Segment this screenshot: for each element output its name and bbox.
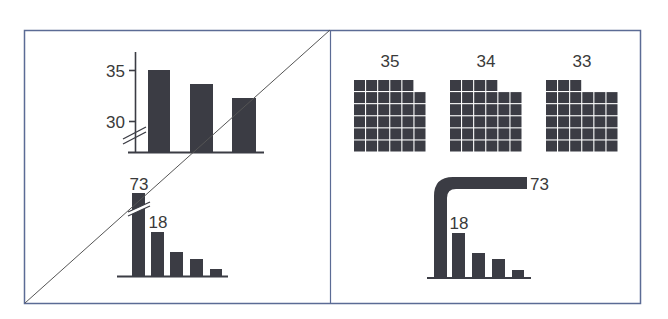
waffle-cell <box>378 141 389 152</box>
waffle-cell <box>390 141 401 152</box>
waffle-cell <box>511 128 522 139</box>
bar <box>472 253 485 278</box>
waffle-cell <box>486 116 497 127</box>
waffle-cell <box>390 104 401 115</box>
waffle-cell <box>366 92 377 103</box>
waffle-cell <box>450 92 461 103</box>
waffle-cell <box>486 141 497 152</box>
waffle-cell <box>402 80 413 91</box>
waffle-cell <box>582 116 593 127</box>
waffle-cell <box>378 80 389 91</box>
waffle-cell <box>354 80 365 91</box>
waffle-cell <box>486 128 497 139</box>
waffle-cell <box>378 128 389 139</box>
waffle-label-34: 34 <box>477 52 496 71</box>
waffle-cell <box>558 116 569 127</box>
tick-label-35: 35 <box>106 62 125 81</box>
waffle-cell <box>570 128 581 139</box>
waffle-cell <box>474 128 485 139</box>
waffle-cell <box>607 141 618 152</box>
tick-label-30: 30 <box>106 113 125 132</box>
waffle-cell <box>415 128 426 139</box>
waffle-cell <box>474 116 485 127</box>
waffle-cell <box>378 116 389 127</box>
waffle-cell <box>570 92 581 103</box>
comparison-figure: 35 30 73 18 <box>0 0 668 319</box>
waffle-cell <box>558 92 569 103</box>
waffle-cell <box>607 116 618 127</box>
waffle-cell <box>594 141 605 152</box>
waffle-cell <box>402 92 413 103</box>
waffle-cell <box>546 80 557 91</box>
waffle-cell <box>354 116 365 127</box>
left-panel: 35 30 73 18 <box>25 30 330 303</box>
waffle-cell <box>450 104 461 115</box>
waffle-cell <box>415 141 426 152</box>
waffle-cell <box>402 116 413 127</box>
waffle-cell <box>366 128 377 139</box>
waffle-cell <box>511 104 522 115</box>
waffle-cell <box>511 92 522 103</box>
waffle-cell <box>511 141 522 152</box>
waffle-cell <box>415 92 426 103</box>
waffle-cell <box>474 104 485 115</box>
waffle-cell <box>486 80 497 91</box>
waffle-cell <box>354 104 365 115</box>
broken-bar-chart: 73 18 <box>117 175 228 277</box>
waffle-cell <box>415 104 426 115</box>
waffle-cell <box>450 128 461 139</box>
right-panel: 35 34 33 73 18 <box>354 52 618 278</box>
axis-break-mark <box>123 127 146 139</box>
waffle-cell <box>390 116 401 127</box>
truncated-bar-chart: 35 30 <box>106 52 264 153</box>
waffle-cell <box>594 128 605 139</box>
waffle-cell <box>558 141 569 152</box>
waffle-cell <box>462 92 473 103</box>
waffle-cell <box>570 104 581 115</box>
waffle-cell <box>498 128 509 139</box>
waffle-charts <box>354 80 618 152</box>
waffle-cell <box>378 104 389 115</box>
waffle-label-35: 35 <box>381 52 400 71</box>
waffle-cell <box>607 128 618 139</box>
bar <box>492 259 505 278</box>
waffle-cell <box>486 92 497 103</box>
waffle-cell <box>570 141 581 152</box>
waffle-cell <box>594 116 605 127</box>
bar <box>170 252 183 276</box>
waffle-cell <box>546 92 557 103</box>
waffle-cell <box>462 104 473 115</box>
label-18: 18 <box>149 213 168 232</box>
waffle-cell <box>546 116 557 127</box>
waffle-cell <box>402 104 413 115</box>
label-73: 73 <box>530 175 549 194</box>
waffle-cell <box>402 128 413 139</box>
waffle-cell <box>511 116 522 127</box>
waffle-cell <box>546 128 557 139</box>
waffle-chart-35 <box>354 80 426 152</box>
waffle-cell <box>486 104 497 115</box>
waffle-cell <box>390 80 401 91</box>
waffle-cell <box>498 104 509 115</box>
bent-bar-chart: 73 18 <box>427 175 549 278</box>
waffle-cell <box>366 141 377 152</box>
waffle-cell <box>450 116 461 127</box>
waffle-cell <box>546 104 557 115</box>
waffle-cell <box>570 116 581 127</box>
waffle-chart-33 <box>546 80 618 152</box>
waffle-cell <box>462 116 473 127</box>
bar <box>512 270 524 278</box>
waffle-cell <box>390 92 401 103</box>
waffle-cell <box>474 92 485 103</box>
bar-18 <box>151 232 164 276</box>
waffle-cell <box>402 141 413 152</box>
waffle-cell <box>354 128 365 139</box>
waffle-chart-34 <box>450 80 522 152</box>
waffle-cell <box>498 116 509 127</box>
waffle-cell <box>474 80 485 91</box>
bar-18 <box>452 233 465 278</box>
bar <box>148 70 170 152</box>
waffle-cell <box>474 141 485 152</box>
waffle-cell <box>607 104 618 115</box>
waffle-cell <box>582 128 593 139</box>
